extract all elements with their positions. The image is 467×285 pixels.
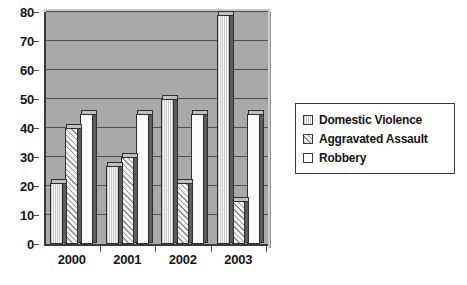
- legend-item: Aggravated Assault: [303, 129, 447, 148]
- y-axis-tick-label: 70: [20, 35, 34, 48]
- bar-side-face: [244, 198, 249, 244]
- bar-side-face: [259, 111, 264, 244]
- bar-front-face: [218, 16, 229, 243]
- legend-item: Domestic Violence: [303, 110, 447, 129]
- y-axis-tick-label: 40: [20, 122, 34, 135]
- y-axis-tick: [34, 157, 39, 158]
- y-axis-tick: [34, 215, 39, 216]
- x-axis-tick: [266, 246, 267, 252]
- bar-front-face: [248, 115, 259, 244]
- legend-item: Robbery: [303, 148, 447, 167]
- bar-front-face: [137, 115, 148, 244]
- chart-legend: Domestic Violence Aggravated Assault Rob…: [295, 103, 455, 174]
- x-axis-tick-label: 2000: [58, 252, 86, 267]
- bar-front-face: [51, 184, 62, 243]
- bar-front-face: [233, 202, 244, 244]
- bar-side-face: [173, 96, 178, 243]
- bar-side-face: [188, 180, 193, 243]
- legend-label: Domestic Violence: [319, 113, 422, 127]
- bar-front-face: [81, 115, 92, 244]
- y-axis-tick: [34, 70, 39, 71]
- bar: [50, 183, 63, 244]
- y-axis-tick: [34, 99, 39, 100]
- bar-front-face: [162, 100, 173, 243]
- bar-side-face: [203, 111, 208, 244]
- y-axis-tick-label: 30: [20, 151, 34, 164]
- y-axis-tick-label: 60: [20, 64, 34, 77]
- plot-area-right-bevel: [268, 12, 271, 248]
- bar-side-face: [148, 111, 153, 244]
- bar-side-face: [133, 154, 138, 243]
- bar: [106, 166, 119, 244]
- bar: [161, 99, 174, 244]
- legend-label: Aggravated Assault: [319, 132, 428, 146]
- bar-side-face: [62, 180, 67, 243]
- y-axis-tick-label: 80: [20, 6, 34, 19]
- x-axis-tick-label: 2003: [224, 252, 252, 267]
- bar-front-face: [66, 129, 77, 243]
- bar-front-face: [122, 158, 133, 243]
- y-axis: 01020304050607080: [0, 0, 38, 285]
- x-axis-tick: [100, 246, 101, 252]
- y-axis-tick: [34, 244, 39, 245]
- bar-side-face: [77, 125, 82, 243]
- bar-side-face: [118, 163, 123, 243]
- bars-layer: [46, 12, 268, 244]
- y-axis-tick-label: 50: [20, 93, 34, 106]
- bar-front-face: [177, 184, 188, 243]
- y-axis-tick: [34, 12, 39, 13]
- x-axis: 2000200120022003: [44, 252, 268, 276]
- y-axis-tick: [34, 128, 39, 129]
- y-axis-tick-label: 0: [27, 238, 34, 251]
- bar-side-face: [92, 111, 97, 244]
- bar-front-face: [107, 167, 118, 243]
- legend-swatch-aggravated-assault: [303, 134, 313, 144]
- y-axis-tick: [34, 41, 39, 42]
- x-axis-tick: [211, 246, 212, 252]
- plot-area: [44, 12, 268, 246]
- bar: [217, 15, 230, 244]
- x-axis-tick: [155, 246, 156, 252]
- legend-swatch-domestic-violence: [303, 115, 313, 125]
- y-axis-tick-label: 20: [20, 180, 34, 193]
- legend-swatch-robbery: [303, 153, 313, 163]
- bar-side-face: [229, 12, 234, 243]
- legend-label: Robbery: [319, 151, 366, 165]
- x-axis-tick-label: 2002: [169, 252, 197, 267]
- y-axis-tick: [34, 186, 39, 187]
- y-axis-tick-label: 10: [20, 209, 34, 222]
- bar-chart: 01020304050607080 2000200120022003 Domes…: [0, 0, 467, 285]
- bar-front-face: [192, 115, 203, 244]
- x-axis-tick-label: 2001: [113, 252, 141, 267]
